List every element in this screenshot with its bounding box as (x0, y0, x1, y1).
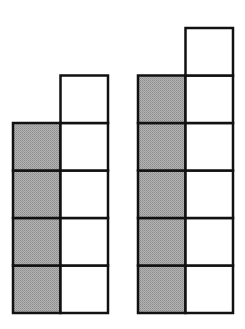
shaded-cell (138, 266, 186, 314)
white-cell (61, 123, 109, 171)
white-cell (186, 266, 234, 314)
white-cell (186, 123, 234, 171)
white-cell (61, 171, 109, 219)
shaded-cell (138, 123, 186, 171)
shaded-cell (138, 76, 186, 124)
white-cell (61, 266, 109, 314)
block-diagram (0, 0, 245, 329)
shaded-cell (138, 171, 186, 219)
shaded-cell (13, 266, 61, 314)
shaded-cell (13, 218, 61, 266)
shaded-cell (13, 123, 61, 171)
white-cell (186, 76, 234, 124)
shaded-cell (138, 218, 186, 266)
white-cell (186, 171, 234, 219)
left-figure (13, 76, 108, 314)
white-cell (61, 218, 109, 266)
right-figure (138, 28, 233, 313)
white-cell (61, 76, 109, 124)
shaded-cell (13, 171, 61, 219)
white-cell (186, 218, 234, 266)
white-cell (186, 28, 234, 76)
